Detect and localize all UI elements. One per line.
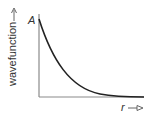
wavefunction-curve: [39, 19, 144, 97]
amplitude-label: A: [28, 14, 35, 26]
x-axis-label: r: [121, 101, 125, 113]
y-axis-label: wavefunction: [6, 22, 18, 86]
x-arrow-icon: [128, 106, 143, 111]
y-arrow-icon: [12, 8, 17, 21]
diagram-canvas: [0, 0, 153, 118]
